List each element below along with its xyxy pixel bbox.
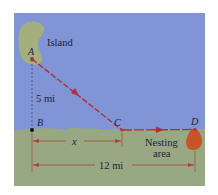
bird-flight-diagram: Island A B C D 5 mi x 12 mi Nesting area [0,0,218,195]
point-d-marker [193,128,196,131]
nesting-label-line1: Nesting [145,137,178,148]
point-a-marker [30,57,34,61]
point-d-label: D [190,116,199,127]
island-label: Island [47,37,73,48]
ab-distance-label: 5 mi [36,93,55,104]
point-b-marker [30,128,34,132]
point-b-label: B [37,117,43,128]
nesting-label-line2: area [153,148,171,159]
bd-distance-label: 12 mi [99,160,123,171]
point-c-marker [120,128,123,131]
point-c-label: C [114,117,121,128]
point-a-label: A [27,46,35,57]
bc-distance-label: x [71,136,77,147]
